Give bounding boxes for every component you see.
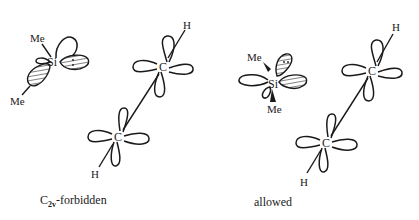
left-silylene: Me Si Me [10, 32, 89, 107]
me-label-top: Me [30, 32, 45, 44]
wedge-bond-top [263, 62, 271, 72]
lone-pair-dot [283, 61, 285, 63]
caption-allowed: allowed [254, 195, 292, 210]
left-alkene: C H C H [88, 19, 193, 180]
right-silylene: Me Si Me [239, 51, 307, 115]
sp-hatched-lobe [276, 54, 292, 76]
carbon-label-upper: C [368, 64, 376, 78]
h-label-lower: H [91, 168, 99, 180]
caption-symmetry: C [40, 193, 48, 207]
right-alkene: C H C H [296, 21, 402, 188]
me-label-bottom: Me [267, 103, 282, 115]
lone-pair-dot [72, 59, 74, 61]
me-label-top: Me [247, 51, 262, 63]
caption-forbidden: C2v-forbidden [40, 193, 107, 209]
caption-subscript: 2v [48, 200, 56, 209]
c-h-bond-upper [377, 34, 393, 62]
si-label: Si [268, 77, 279, 91]
h-label-upper: H [183, 19, 191, 31]
h-label-lower: H [300, 176, 308, 188]
open-lobe-left [239, 75, 268, 86]
lone-pair-dot [72, 64, 74, 66]
sp-hatched-lobe [60, 55, 89, 69]
h-label-upper: H [392, 21, 400, 33]
me-label-bottom: Me [10, 95, 25, 107]
c-c-bond [123, 74, 159, 130]
carbon-label-lower: C [114, 130, 122, 144]
si-label: Si [47, 55, 58, 69]
lone-pair-dot [287, 61, 289, 63]
p-hatched-lobe [279, 75, 307, 88]
c-c-bond [331, 78, 368, 136]
carbon-label-upper: C [159, 60, 167, 74]
c-h-bond-upper [168, 30, 185, 58]
si-me-bond-bottom [22, 86, 30, 95]
caption-text: -forbidden [56, 193, 107, 207]
carbon-label-lower: C [322, 136, 330, 150]
orbital-diagram: Me Si Me C H C H Me [0, 0, 419, 220]
